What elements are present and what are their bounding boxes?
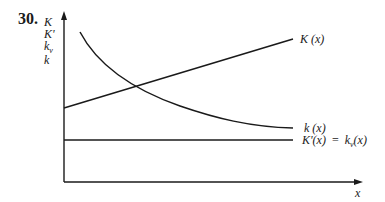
label-K-prime-left: K'(x) xyxy=(302,133,326,147)
label-equals: = xyxy=(332,133,339,147)
label-K-curve: K (x) xyxy=(300,32,324,47)
label-k-v-arg: (x) xyxy=(354,133,367,147)
label-K-curve-text: K (x) xyxy=(300,32,324,46)
chart-plot xyxy=(0,0,385,202)
label-K-prime-curve: K'(x) = kv(x) xyxy=(302,133,367,149)
curve-k xyxy=(80,32,293,128)
x-axis-label-text: x xyxy=(355,186,360,200)
x-axis-arrow-icon xyxy=(354,179,363,185)
y-axis-arrow-icon xyxy=(61,11,67,20)
curve-K xyxy=(64,39,293,108)
x-axis-label: x xyxy=(355,186,360,201)
